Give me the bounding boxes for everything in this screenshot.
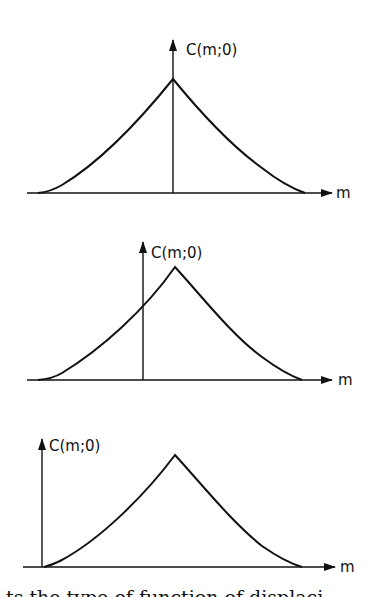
- x-axis-label: m: [338, 371, 353, 389]
- y-axis-label: C(m;0): [151, 244, 202, 262]
- y-axis-label: C(m;0): [186, 41, 237, 59]
- x-axis-label: m: [340, 558, 355, 576]
- correlation-curve: [44, 455, 302, 567]
- panel-3: C(m;0) m: [23, 437, 355, 576]
- figure-canvas: C(m;0) m C(m;0) m C(m;0) m: [0, 0, 375, 597]
- caption-text: ts the type of function of displaci: [0, 583, 375, 597]
- panel-2: C(m;0) m: [27, 242, 353, 389]
- correlation-curve: [38, 267, 302, 380]
- x-axis-label: m: [336, 184, 351, 202]
- y-axis-label: C(m;0): [49, 437, 100, 455]
- panel-1: C(m;0) m: [27, 40, 351, 202]
- correlation-curve: [38, 79, 305, 193]
